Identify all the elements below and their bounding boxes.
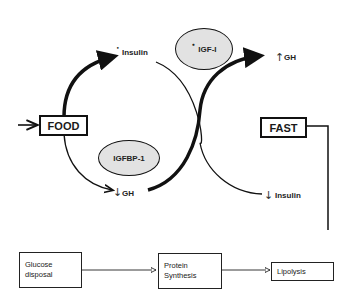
insulin-fed-label: Insulin: [122, 49, 148, 57]
gh-fasting-label: GH: [284, 54, 296, 62]
fast-label: FAST: [269, 122, 297, 134]
food-label: FOOD: [48, 120, 80, 132]
process-protein-synthesis: Protein Synthesis: [158, 253, 222, 289]
gh-down-arrow-icon: ↓: [113, 187, 122, 198]
fast-box: FAST: [260, 117, 307, 138]
insulin-up-marker-icon: •: [116, 45, 120, 51]
food-to-insulin-arc: [64, 57, 112, 117]
fast-connector-line: [306, 126, 328, 230]
igf1-ellipse: • IGF-I: [175, 28, 233, 70]
igf1-marker-icon: •: [191, 42, 195, 48]
process-glucose-disposal: Glucose disposal: [19, 252, 82, 288]
igf1-label: IGF-I: [198, 45, 216, 54]
insulin-fasting-label: Insulin: [275, 192, 301, 200]
insulin-down-arrow-icon: ↓: [264, 190, 273, 201]
igfbp1-label: IGFBP-1: [113, 154, 145, 163]
gh-fed-label: GH: [122, 190, 134, 198]
igfbp1-ellipse: IGFBP-1: [98, 140, 160, 176]
process-lipolysis: Lipolysis: [271, 262, 334, 281]
fast-to-gh-thick-arc: [148, 56, 258, 190]
food-box: FOOD: [39, 115, 88, 136]
gh-up-arrow-icon: ↑: [275, 52, 284, 63]
